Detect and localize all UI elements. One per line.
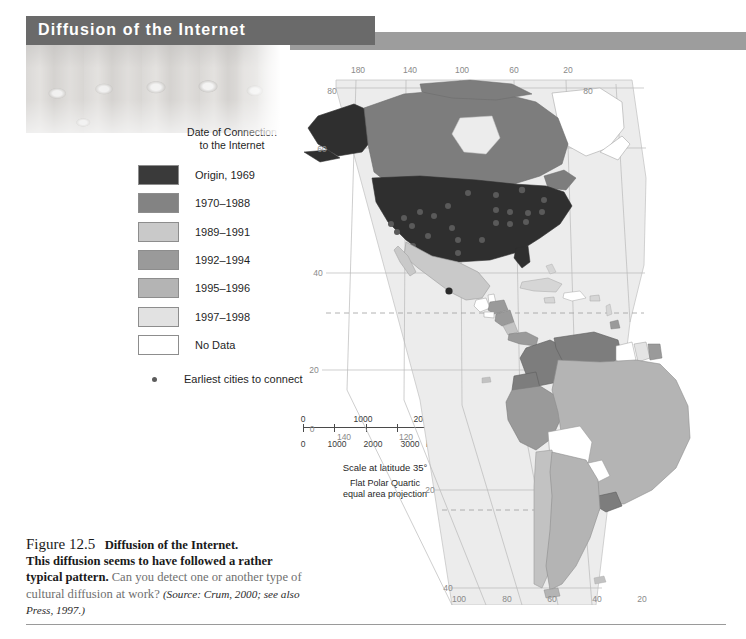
- legend-label: 1997–1998: [195, 311, 250, 323]
- legend-swatch-no-data: [138, 335, 179, 355]
- lat-label-left-0: 0: [310, 424, 315, 434]
- lon-label-top-180: 180: [351, 65, 365, 75]
- legend-label: No Data: [195, 339, 235, 351]
- banner-title-bar: Diffusion of the Internet: [26, 16, 375, 45]
- lon-label-axis-40: 40: [592, 594, 602, 604]
- legend-label: Earliest cities to connect: [184, 373, 303, 385]
- map-legend: Date of Connection to the Internet Origi…: [138, 126, 308, 385]
- legend-label: 1995–1996: [195, 282, 250, 294]
- lat-label-south-20: 20: [425, 485, 435, 495]
- earliest-city-dot-mexico-city: [445, 287, 452, 294]
- legend-label: 1970–1988: [195, 197, 250, 209]
- legend-item: 1995–1996: [138, 274, 308, 302]
- lat-label-left-20: 20: [309, 365, 319, 375]
- lat-label-left-40: 40: [313, 268, 323, 278]
- legend-item: 1970–1988: [138, 189, 308, 217]
- legend-label: 1992–1994: [195, 254, 250, 266]
- country-french-guiana: [648, 344, 662, 360]
- lon-label-axis-100: 100: [452, 594, 466, 604]
- legend-items: Origin, 1969 1970–1988 1989–1991 1992–19…: [138, 161, 308, 359]
- lon-label-axis-20: 20: [637, 594, 647, 604]
- figure-caption: Figure 12.5 Diffusion of the Internet. T…: [26, 536, 306, 618]
- lon-label-top-60: 60: [509, 65, 519, 75]
- legend-item: Origin, 1969: [138, 161, 308, 189]
- legend-item: 1992–1994: [138, 246, 308, 274]
- country-el-salvador: [484, 312, 494, 318]
- island-puerto-rico: [590, 295, 600, 301]
- city-dot-icon: [152, 377, 157, 382]
- legend-swatch-1997-1998: [138, 307, 179, 327]
- legend-swatch-1995-1996: [138, 278, 179, 298]
- legend-item: No Data: [138, 331, 308, 359]
- legend-label: 1989–1991: [195, 226, 250, 238]
- legend-swatch-origin-1969: [138, 165, 179, 185]
- island-galapagos: [482, 377, 491, 383]
- lon-label-bottom-120: 120: [399, 432, 413, 442]
- legend-item: 1997–1998: [138, 302, 308, 330]
- lat-label-right-80: 80: [583, 86, 593, 96]
- map-svg: 180 140 100 60 20 80 60 40 20 0 80 140 1…: [300, 60, 746, 605]
- country-suriname: [634, 342, 650, 362]
- lon-label-bottom-140: 140: [337, 432, 351, 442]
- lon-label-axis-80: 80: [502, 594, 512, 604]
- legend-swatch-1970-1988: [138, 193, 179, 213]
- caption-figure-number: Figure 12.5: [26, 536, 95, 552]
- legend-swatch-1992-1994: [138, 250, 179, 270]
- photo-fade-overlay: [236, 45, 290, 135]
- lon-label-top-140: 140: [403, 65, 417, 75]
- legend-item-earliest-cities: Earliest cities to connect: [152, 373, 308, 385]
- lat-label-south-40: 40: [443, 583, 453, 593]
- island-jamaica: [544, 297, 555, 303]
- page-bottom-rule: [26, 624, 726, 625]
- lon-label-top-20: 20: [563, 65, 573, 75]
- legend-item: 1989–1991: [138, 218, 308, 246]
- lon-label-axis-60: 60: [547, 594, 557, 604]
- lat-label-left-60: 60: [317, 144, 327, 154]
- legend-swatch-1989-1991: [138, 222, 179, 242]
- map-figure: 180 140 100 60 20 80 60 40 20 0 80 140 1…: [300, 60, 746, 605]
- caption-figure-title: Diffusion of the Internet.: [105, 538, 239, 552]
- lon-label-top-100: 100: [455, 65, 469, 75]
- lat-label-left-80: 80: [327, 86, 337, 96]
- legend-label: Origin, 1969: [195, 169, 255, 181]
- page-title: Diffusion of the Internet: [38, 21, 246, 39]
